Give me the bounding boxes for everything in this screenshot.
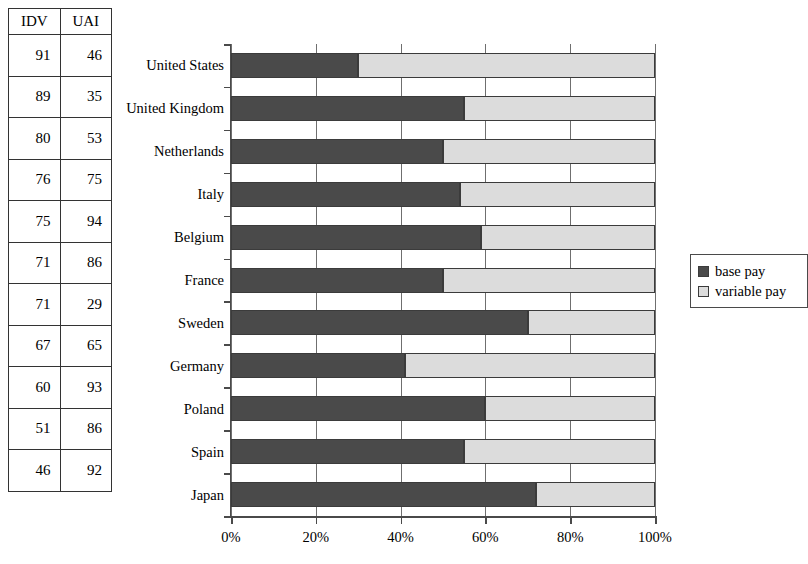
bar-row xyxy=(231,96,655,121)
x-tick-mark xyxy=(570,516,572,524)
x-axis-line xyxy=(231,516,656,518)
y-tick-mark xyxy=(224,259,231,261)
plot-area xyxy=(231,44,655,516)
category-label: Sweden xyxy=(34,316,224,331)
bar-segment-base-pay xyxy=(231,96,464,121)
category-label: Netherlands xyxy=(34,144,224,159)
legend-item-base-pay: base pay xyxy=(698,261,803,281)
bar-row xyxy=(231,439,655,464)
y-tick-mark xyxy=(224,130,231,132)
y-tick-mark xyxy=(224,173,231,175)
legend-label-base-pay: base pay xyxy=(715,264,765,279)
legend-label-variable-pay: variable pay xyxy=(715,284,786,299)
filled-square-icon xyxy=(698,266,709,277)
bar-segment-base-pay xyxy=(231,182,460,207)
bar-row xyxy=(231,139,655,164)
bar-segment-base-pay xyxy=(231,396,485,421)
bar-row xyxy=(231,225,655,250)
column-header-idv: IDV xyxy=(9,9,61,35)
bar-segment-base-pay xyxy=(231,268,443,293)
bar-segment-variable-pay xyxy=(405,353,655,378)
bar-segment-variable-pay xyxy=(481,225,655,250)
x-tick-mark xyxy=(655,516,657,524)
x-tick-label: 80% xyxy=(540,530,600,545)
x-axis-tick-labels: 0%20%40%60%80%100% xyxy=(0,530,802,552)
table-header-row: IDV UAI xyxy=(9,9,112,35)
category-label: United States xyxy=(34,58,224,73)
y-tick-mark xyxy=(224,387,231,389)
bar-segment-base-pay xyxy=(231,353,405,378)
bar-segment-variable-pay xyxy=(464,439,655,464)
bar-segment-base-pay xyxy=(231,482,536,507)
bar-segment-base-pay xyxy=(231,53,358,78)
y-tick-mark xyxy=(224,44,231,46)
x-tick-label: 60% xyxy=(455,530,515,545)
x-tick-label: 40% xyxy=(371,530,431,545)
x-tick-mark xyxy=(401,516,403,524)
bar-row xyxy=(231,396,655,421)
category-label: Belgium xyxy=(34,230,224,245)
bar-segment-base-pay xyxy=(231,139,443,164)
bar-segment-variable-pay xyxy=(443,268,655,293)
bar-row xyxy=(231,182,655,207)
bar-row xyxy=(231,268,655,293)
bar-segment-base-pay xyxy=(231,310,528,335)
y-tick-mark xyxy=(224,216,231,218)
category-label: Poland xyxy=(34,402,224,417)
x-tick-mark xyxy=(485,516,487,524)
gridline xyxy=(655,44,656,516)
y-tick-mark xyxy=(224,344,231,346)
y-tick-mark xyxy=(224,516,231,518)
y-tick-mark xyxy=(224,473,231,475)
x-tick-label: 20% xyxy=(286,530,346,545)
category-label: Spain xyxy=(34,445,224,460)
legend-item-variable-pay: variable pay xyxy=(698,281,803,301)
bar-segment-variable-pay xyxy=(485,396,655,421)
bar-segment-variable-pay xyxy=(464,96,655,121)
x-tick-mark xyxy=(316,516,318,524)
category-label: Germany xyxy=(34,359,224,374)
x-tick-mark xyxy=(231,516,233,524)
column-header-uai: UAI xyxy=(60,9,112,35)
y-tick-mark xyxy=(224,87,231,89)
y-tick-mark xyxy=(224,301,231,303)
category-label: Italy xyxy=(34,187,224,202)
category-label: France xyxy=(34,273,224,288)
bar-row xyxy=(231,353,655,378)
bar-segment-variable-pay xyxy=(443,139,655,164)
bar-row xyxy=(231,53,655,78)
category-label: United Kingdom xyxy=(34,101,224,116)
x-tick-label: 100% xyxy=(625,530,685,545)
bar-segment-variable-pay xyxy=(460,182,655,207)
category-axis-labels: United StatesUnited KingdomNetherlandsIt… xyxy=(30,44,224,516)
bar-row xyxy=(231,310,655,335)
light-square-icon xyxy=(698,286,709,297)
category-label: Japan xyxy=(34,488,224,503)
bar-segment-variable-pay xyxy=(358,53,655,78)
bar-row xyxy=(231,482,655,507)
bar-segment-variable-pay xyxy=(528,310,655,335)
bar-segment-base-pay xyxy=(231,225,481,250)
bar-segment-base-pay xyxy=(231,439,464,464)
bar-segment-variable-pay xyxy=(536,482,655,507)
y-tick-mark xyxy=(224,430,231,432)
x-tick-label: 0% xyxy=(201,530,261,545)
chart-legend: base pay variable pay xyxy=(690,254,808,308)
